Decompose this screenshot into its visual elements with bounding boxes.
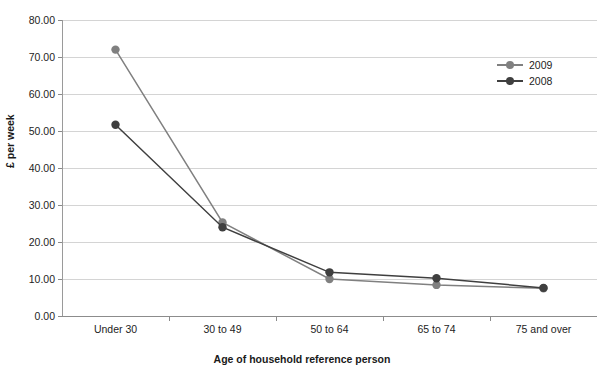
data-point-2008-75 and over <box>539 284 547 292</box>
y-tick-label: 70.00 <box>29 51 55 63</box>
y-axis-line <box>62 20 63 316</box>
legend-dot <box>506 77 514 85</box>
x-tick-label: 75 and over <box>516 323 571 335</box>
x-axis-title: Age of household reference person <box>0 353 604 365</box>
line-chart: £ per week 0.0010.0020.0030.0040.0050.00… <box>0 0 604 373</box>
y-tick-label: 50.00 <box>29 125 55 137</box>
data-point-2008-30 to 49 <box>218 223 226 231</box>
y-axis-title: £ per week <box>4 114 16 168</box>
y-tick-label: 40.00 <box>29 162 55 174</box>
x-tick-label: 30 to 49 <box>204 323 242 335</box>
y-tick-label: 10.00 <box>29 273 55 285</box>
legend-marker-icon <box>497 59 523 71</box>
y-tick-label: 30.00 <box>29 199 55 211</box>
series-line-2009 <box>116 50 544 289</box>
data-point-2008-50 to 64 <box>325 268 333 276</box>
x-tick-label: Under 30 <box>94 323 137 335</box>
chart-legend: 20092008 <box>497 57 583 89</box>
data-point-2008-Under 30 <box>111 121 119 129</box>
y-tick-label: 20.00 <box>29 236 55 248</box>
y-tick-label: 60.00 <box>29 88 55 100</box>
legend-item-2009[interactable]: 2009 <box>497 57 583 73</box>
series-line-2008 <box>116 125 544 288</box>
data-point-2009-Under 30 <box>111 45 119 53</box>
legend-dot <box>506 61 514 69</box>
legend-label: 2009 <box>529 59 552 71</box>
chart-title-clipped <box>0 0 604 6</box>
x-axis-line <box>62 316 597 317</box>
legend-item-2008[interactable]: 2008 <box>497 73 583 89</box>
x-tick-label: 50 to 64 <box>311 323 349 335</box>
legend-label: 2008 <box>529 75 552 87</box>
data-point-2008-65 to 74 <box>432 274 440 282</box>
y-tick-label: 80.00 <box>29 14 55 26</box>
y-tick-label: 0.00 <box>35 310 55 322</box>
x-tick-label: 65 to 74 <box>418 323 456 335</box>
legend-marker-icon <box>497 75 523 87</box>
